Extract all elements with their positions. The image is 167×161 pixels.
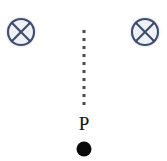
point-p-marker (77, 142, 92, 157)
point-p-label: P (72, 114, 96, 133)
diagram-svg (0, 0, 167, 161)
physics-diagram-canvas: P (0, 0, 167, 161)
